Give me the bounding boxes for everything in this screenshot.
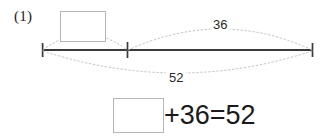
- bracket-label-52: 52: [166, 71, 186, 84]
- equation-expression: +36=52: [164, 101, 256, 130]
- unknown-value-box-equation[interactable]: [113, 98, 164, 133]
- worksheet-problem: (1) 36 52 +36=52: [0, 0, 335, 137]
- bracket-arc-known-part: [128, 29, 312, 50]
- unknown-value-box-diagram[interactable]: [60, 11, 106, 42]
- bracket-label-36: 36: [210, 18, 230, 31]
